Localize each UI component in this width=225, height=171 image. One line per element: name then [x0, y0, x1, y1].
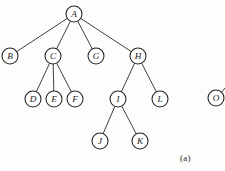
- tree-node-a: A: [66, 6, 82, 22]
- clipped-nodes-group: O: [208, 90, 224, 106]
- tree-edge-a-b: [17, 18, 68, 51]
- tree-edge-a-c: [57, 21, 71, 49]
- tree-node-g-label: G: [93, 51, 100, 61]
- tree-node-l: L: [152, 91, 168, 107]
- tree-node-i: I: [110, 91, 126, 107]
- tree-node-h: H: [130, 48, 146, 64]
- tree-edge-a-h: [81, 18, 132, 51]
- tree-node-b-label: B: [7, 51, 13, 61]
- tree-edge-c-d: [36, 63, 49, 92]
- tree-node-a-label: A: [70, 9, 77, 19]
- clipped-tree-node-o-label: O: [213, 93, 220, 103]
- tree-node-d-label: D: [29, 94, 37, 104]
- tree-node-k: K: [132, 133, 148, 149]
- tree-node-f: F: [67, 91, 83, 107]
- subfigure-caption: (a): [180, 153, 191, 163]
- tree-edge-a-g: [78, 21, 93, 49]
- nodes-group: ABCGHDEFILJK: [2, 6, 168, 149]
- tree-node-b: B: [2, 48, 18, 64]
- tree-node-k-label: K: [136, 136, 144, 146]
- tree-node-f-label: F: [71, 94, 78, 104]
- tree-node-c-label: C: [50, 51, 57, 61]
- tree-edge-h-l: [142, 63, 157, 92]
- tree-node-l-label: L: [156, 94, 162, 104]
- tree-figure: ABCGHDEFILJK O (a): [0, 0, 225, 171]
- tree-edge-i-k: [122, 106, 137, 134]
- tree-edge-h-i: [121, 63, 134, 92]
- tree-edge-c-e: [53, 64, 54, 91]
- tree-edge-i-j: [103, 106, 115, 133]
- clipped-tree-node-o: O: [208, 90, 224, 106]
- tree-edge-c-f: [57, 63, 72, 92]
- tree-node-e-label: E: [50, 94, 57, 104]
- tree-node-e: E: [46, 91, 62, 107]
- tree-node-c: C: [45, 48, 61, 64]
- edges-group: [17, 18, 157, 134]
- tree-node-j: J: [92, 133, 108, 149]
- tree-node-g: G: [88, 48, 104, 64]
- tree-diagram-canvas: ABCGHDEFILJK O: [0, 0, 225, 171]
- tree-node-d: D: [25, 91, 41, 107]
